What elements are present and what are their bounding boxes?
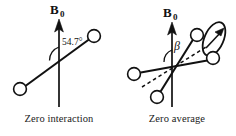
rotation-arrowhead-icon [215,28,224,36]
b0-label-left: B [50,2,59,17]
b0-subscript-right: 0 [173,12,178,22]
sphere-lower-left [151,91,164,104]
b0-subscript-left: 0 [60,9,65,19]
panel-zero-average: B 0 β Zero avera [118,0,236,136]
panel-zero-interaction: B 0 54.7° Zero interaction [0,0,118,136]
sphere-right [207,52,220,65]
diagram-zero-interaction: B 0 54.7° [0,0,118,118]
figure-root: B 0 54.7° Zero interaction B 0 [0,0,236,136]
angle-label-right: β [173,39,180,53]
sphere-lower-left [14,83,27,96]
angle-label-left: 54.7° [62,37,83,47]
diagram-zero-average: B 0 β [118,0,236,118]
caption-zero-interaction: Zero interaction [0,113,118,124]
sphere-left [128,68,141,81]
angle-arc-right [164,50,172,62]
angle-arc-left [49,47,59,61]
b0-axis-right [168,22,177,107]
sphere-upper-right [191,29,204,42]
sphere-upper-right [88,30,101,43]
b0-label-right: B [163,5,172,20]
caption-zero-average: Zero average [118,113,236,124]
